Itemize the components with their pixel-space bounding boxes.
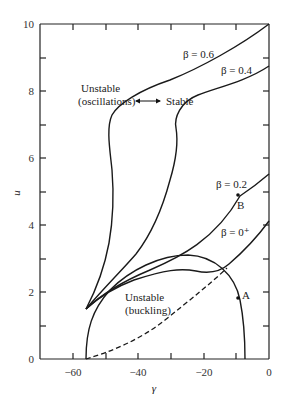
point-b-marker	[236, 193, 240, 197]
y-axis-label: u	[10, 190, 22, 196]
annotation-unstable-oscillations: Unstable	[81, 82, 120, 94]
bifurcation-chart: −60 −40 −20 0 0 2 4 6 8 10 γ u A B β = 0…	[0, 0, 285, 402]
y-tick-label: 2	[29, 286, 35, 298]
y-tick-label: 0	[29, 353, 35, 365]
double-arrow-icon	[135, 99, 161, 104]
annotation-stable: Stable	[166, 95, 194, 107]
label-beta-0.2: β = 0.2	[216, 178, 247, 190]
label-beta-0.4: β = 0.4	[221, 64, 253, 76]
label-beta-0plus: β = 0⁺	[221, 226, 250, 238]
point-a-label: A	[242, 289, 250, 301]
x-tick-label: −20	[195, 366, 213, 378]
x-tick-label: −40	[129, 366, 147, 378]
x-tick-label: 0	[266, 366, 272, 378]
x-axis-label: γ	[152, 382, 157, 394]
x-tick-label: −60	[64, 366, 82, 378]
y-tick-label: 4	[29, 219, 35, 231]
y-tick-label: 10	[23, 18, 35, 30]
y-tick-label: 8	[29, 85, 35, 97]
annotation-unstable-buckling: (buckling)	[125, 304, 171, 317]
label-beta-0.6: β = 0.6	[183, 48, 215, 60]
annotation-unstable-buckling: Unstable	[125, 291, 164, 303]
annotation-unstable-oscillations: (oscillations)	[78, 95, 136, 108]
point-a-marker	[236, 296, 240, 300]
point-b-label: B	[237, 199, 244, 211]
y-tick-label: 6	[29, 152, 35, 164]
